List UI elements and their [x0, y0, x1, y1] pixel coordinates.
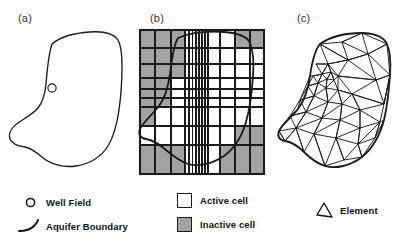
- legend-item-well-field: Well Field: [14, 190, 128, 214]
- panel-b-finite-difference-grid: [132, 22, 272, 180]
- triangle-icon: [308, 201, 340, 219]
- legend-item-active-cell: Active cell: [168, 188, 255, 212]
- mesh-legend: Element: [308, 198, 378, 222]
- legend-label-active-cell: Active cell: [200, 195, 248, 206]
- legend-label-aquifer-boundary: Aquifer Boundary: [46, 221, 128, 232]
- legend-label-well-field: Well Field: [46, 197, 91, 208]
- map-legend: Well Field Aquifer Boundary: [14, 190, 128, 238]
- white-square-icon: [168, 193, 200, 208]
- legend-item-element: Element: [308, 198, 378, 222]
- grid-legend: Active cell Inactive cell: [168, 188, 255, 236]
- mesh-domain-outline: [278, 33, 390, 167]
- aquifer-boundary-outline: [9, 32, 122, 167]
- legend-item-aquifer-boundary: Aquifer Boundary: [14, 214, 128, 238]
- panel-c-finite-element-mesh: [272, 20, 404, 182]
- panel-a-aquifer-map: [0, 18, 140, 180]
- legend-label-inactive-cell: Inactive cell: [200, 219, 255, 230]
- circle-icon: [14, 196, 46, 209]
- legend-item-inactive-cell: Inactive cell: [168, 212, 255, 236]
- gray-square-icon: [168, 217, 200, 232]
- curve-icon: [14, 219, 46, 233]
- well-field-marker: [48, 84, 56, 92]
- legend-label-element: Element: [340, 205, 378, 216]
